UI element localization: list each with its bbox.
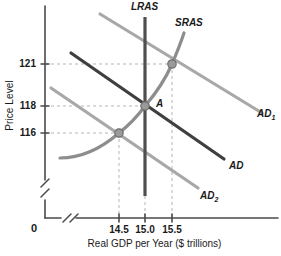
curve-label-sras: SRAS <box>175 17 203 28</box>
point-marker-high <box>168 60 176 68</box>
y-axis-title: Price Level <box>4 66 15 146</box>
x-axis-title: Real GDP per Year ($ trillions) <box>28 238 281 249</box>
curve-label-ad1-text: AD <box>257 108 271 119</box>
y-axis-break-icon <box>41 179 49 197</box>
point-marker-a <box>141 102 149 110</box>
chart-plot-area <box>0 0 281 256</box>
point-marker-low <box>115 129 123 137</box>
curve-label-ad2-sub: 2 <box>214 196 218 203</box>
x-tick-label-15-5: 15.5 <box>155 224 189 235</box>
curve-ad2 <box>51 88 198 188</box>
curve-label-ad2-text: AD <box>200 190 214 201</box>
curve-label-ad: AD <box>229 160 243 171</box>
point-label-a: A <box>156 98 163 109</box>
curve-label-ad1: AD1 <box>257 108 275 121</box>
origin-label: 0 <box>31 222 37 234</box>
curve-label-lras: LRAS <box>131 1 158 12</box>
curve-sras <box>60 33 184 158</box>
curve-label-ad1-sub: 1 <box>271 114 275 121</box>
curve-label-ad2: AD2 <box>200 190 218 203</box>
aggregate-demand-supply-chart: 121 118 116 14.5 15.0 15.5 0 Price Level… <box>0 0 281 256</box>
